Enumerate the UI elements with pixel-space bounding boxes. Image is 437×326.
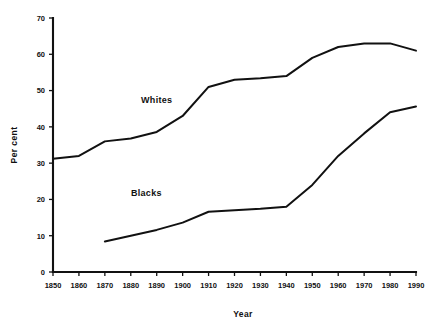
x-tick-label: 1950: [304, 281, 321, 290]
series-line-blacks: [105, 107, 416, 242]
x-axis-title: Year: [233, 309, 253, 319]
series-annotation-blacks: Blacks: [131, 188, 162, 198]
series-line-whites: [53, 43, 416, 158]
y-tick-label: 30: [37, 159, 45, 168]
y-tick-label: 20: [37, 195, 45, 204]
x-axis-ticks: 1850186018701880189019001910192019301940…: [45, 272, 425, 290]
y-tick-label: 0: [41, 268, 45, 277]
x-tick-label: 1960: [330, 281, 347, 290]
x-tick-label: 1970: [356, 281, 373, 290]
x-tick-label: 1990: [408, 281, 425, 290]
y-tick-label: 70: [37, 14, 45, 23]
y-tick-label: 40: [37, 123, 45, 132]
x-tick-label: 1920: [226, 281, 243, 290]
x-tick-label: 1880: [122, 281, 139, 290]
x-tick-label: 1930: [252, 281, 269, 290]
y-tick-label: 50: [37, 86, 45, 95]
series-layer: [53, 43, 416, 241]
x-tick-label: 1870: [97, 281, 114, 290]
x-tick-label: 1850: [45, 281, 62, 290]
y-tick-label: 10: [37, 232, 45, 241]
x-tick-label: 1910: [200, 281, 217, 290]
y-axis-title: Per cent: [9, 127, 19, 164]
x-tick-label: 1860: [71, 281, 88, 290]
x-tick-label: 1900: [174, 281, 191, 290]
series-annotations: WhitesBlacks: [131, 95, 172, 198]
line-chart: 010203040506070 185018601870188018901900…: [0, 0, 437, 326]
axes-group: [53, 18, 416, 272]
x-tick-label: 1940: [278, 281, 295, 290]
y-axis-ticks: 010203040506070: [37, 14, 53, 277]
x-tick-label: 1980: [382, 281, 399, 290]
y-tick-label: 60: [37, 50, 45, 59]
x-tick-label: 1890: [148, 281, 165, 290]
series-annotation-whites: Whites: [141, 95, 172, 105]
